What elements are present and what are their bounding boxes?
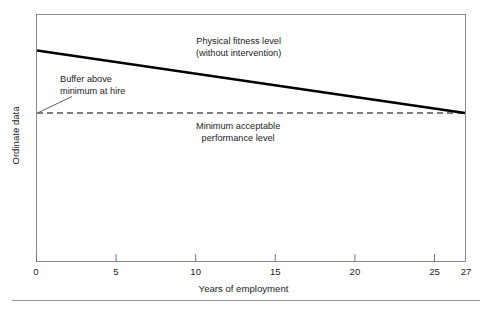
x-tick-label-25: 25 xyxy=(429,266,440,277)
physical-fitness-label-line2: (without intervention) xyxy=(196,48,281,60)
x-tick-label-27: 27 xyxy=(461,266,472,277)
x-tick-label-20: 20 xyxy=(350,266,361,277)
x-tick-label-15: 15 xyxy=(270,266,281,277)
minimum-acceptable-label: Minimum acceptable performance level xyxy=(196,121,280,144)
minimum-acceptable-label-line2: performance level xyxy=(196,133,280,145)
x-axis-title: Years of employment xyxy=(0,283,487,294)
buffer-label-line1: Buffer above xyxy=(60,74,125,86)
minimum-acceptable-label-line1: Minimum acceptable xyxy=(196,121,280,133)
physical-fitness-label: Physical fitness level (without interven… xyxy=(196,36,281,59)
figure-container: Physical fitness level (without interven… xyxy=(0,0,487,309)
y-axis-title: Ordinate data xyxy=(10,96,21,176)
physical-fitness-label-line1: Physical fitness level xyxy=(196,36,281,48)
bottom-divider xyxy=(12,300,480,301)
x-tick-label-5: 5 xyxy=(113,266,118,277)
x-tick-label-0: 0 xyxy=(33,266,38,277)
buffer-label-line2: minimum at hire xyxy=(60,86,125,98)
buffer-label: Buffer above minimum at hire xyxy=(60,74,125,97)
x-tick-label-10: 10 xyxy=(190,266,201,277)
